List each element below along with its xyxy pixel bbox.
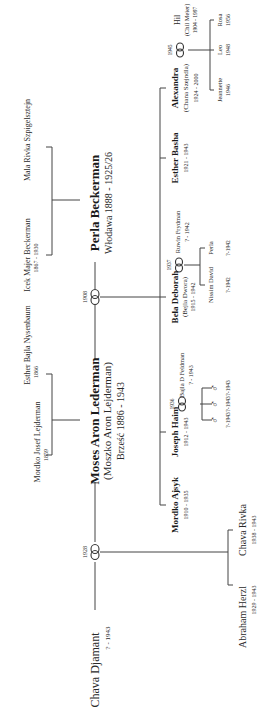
ring-1945-icon <box>177 43 184 57</box>
ring-1937-icon <box>176 258 183 272</box>
ring-1928-icon <box>91 545 99 560</box>
male-symbol-icon: ♂ <box>208 416 220 424</box>
ruwin-frydman-dates: ? - 1942 <box>184 222 190 242</box>
alexandra-name: Alexandra <box>170 67 180 108</box>
mordko-ajsyk-name: Mordko Ajsyk <box>170 477 180 533</box>
jeannette-name: Jeannette <box>216 78 223 102</box>
ring-1908-icon <box>91 290 99 305</box>
ggp-icek-dates: 1867 - 1930 <box>33 244 39 273</box>
chava-djamant-name: Chava Djamant <box>88 632 102 708</box>
perla-child-name: Perla <box>207 241 214 254</box>
leo-name: Leo <box>216 45 223 55</box>
marriage-year-1936: 1936 <box>169 398 175 409</box>
bela-deborah-alias: (Bejla Dwora) <box>181 276 189 317</box>
perla-child-dates: ?-1942 <box>225 240 231 256</box>
bajla-feldman-name: Bajla D Feldman <box>178 352 185 397</box>
abraham-herzl-dates: 1929 - 1943 <box>251 586 257 615</box>
chava-rivka-dates: 1938 - 1943 <box>251 516 257 545</box>
moses-name: Moses Aron Lederman <box>87 357 102 485</box>
alexandra-dates: 1924 - 2000 <box>193 74 199 103</box>
joseph-haim-dates: 1912 - 1943 <box>183 418 189 447</box>
ggp-esther-name: Esther Bajla Nysenbaum <box>23 304 32 384</box>
esther-basha-name: Esther Basha <box>170 132 180 184</box>
ruwin-frydman-name: Ruwin Frydman <box>174 210 181 253</box>
joseph-child-1-dates: ?-1943 <box>225 412 231 428</box>
bela-deborah-dates: 1915 - 1942 <box>190 283 196 312</box>
joseph-child-2-dates: ?-1943 <box>225 396 231 412</box>
leo-dates: 1948 <box>225 44 231 56</box>
marriage-year-1908: 1908 <box>82 291 88 303</box>
perla-place-dates: Włodawa 1888 - 1925/26 <box>103 152 114 254</box>
ggp-icek-name: Icek Majer Beckerman <box>23 218 32 291</box>
esther-basha-dates: 1921 - 1943 <box>183 144 189 173</box>
marriage-year-1937: 1937 <box>166 259 172 270</box>
family-tree-diagram: Mordko Josef Lejderman 1859 Esther Bajla… <box>0 0 278 711</box>
rosa-name: Rosa <box>216 13 223 26</box>
joseph-child-3-dates: ?-1943 <box>225 380 231 396</box>
marriage-year-1945: 1945 <box>167 44 173 55</box>
male-symbol-icon: ♂ <box>208 384 220 392</box>
bajla-feldman-dates: ? - 1943 <box>188 365 194 385</box>
ggp-mordko-dates: 1859 <box>43 449 49 461</box>
rosa-dates: 1956 <box>225 14 231 26</box>
hil-dates: 1904 - 1997 <box>192 6 198 33</box>
moses-alias: (Moszko Aron Lejderman) <box>101 362 114 480</box>
ggp-esther-dates: 1866 <box>33 366 39 378</box>
perla-name: Perla Beckerman <box>87 154 102 251</box>
joseph-haim-name: Joseph Haim <box>170 406 180 457</box>
ggp-mala-name: Mala Rivka Szpigelsztejn <box>23 99 32 181</box>
mordko-ajsyk-dates: 1910 - 1935 <box>183 491 189 520</box>
marriage-year-1928: 1928 <box>82 546 88 558</box>
connector-lines <box>46 20 233 610</box>
ggp-mordko-name: Mordko Josef Lejderman <box>33 402 42 483</box>
moses-place-dates: Brześć 1886 - 1943 <box>115 382 126 460</box>
nissim-david-dates: ?-1942 <box>225 277 231 293</box>
chava-rivka-name: Chava Rivka <box>237 503 248 555</box>
male-symbol-icon: ♂ <box>208 400 220 408</box>
hil-name: Hil <box>173 14 182 25</box>
nissim-david-name: Nissim David <box>207 266 214 303</box>
bela-deborah-name: Bela Deborah <box>170 271 180 324</box>
alexandra-alias: (Chana Szejndla) <box>182 63 190 112</box>
jeannette-dates: 1946 <box>225 84 231 96</box>
chava-djamant-dates: ? - 1943 <box>104 626 112 649</box>
hil-alias: (Chil Meier) <box>183 4 191 37</box>
abraham-herzl-name: Abraham Herzl <box>237 586 248 648</box>
